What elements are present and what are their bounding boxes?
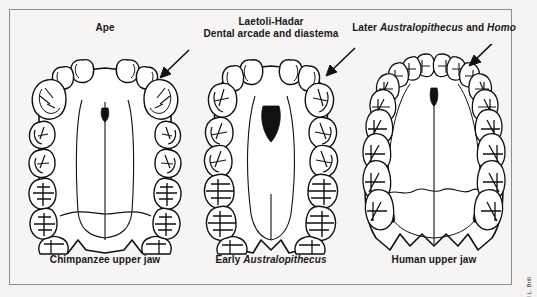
ape-upper-jaw-illustration — [20, 44, 190, 256]
early-australopithecus-jaw-illustration — [185, 44, 357, 256]
panel-laetoli-hadar-bottom-caption: Early Australopithecus — [185, 254, 357, 266]
figure-frame: Ape — [9, 9, 512, 285]
bottom-caption-plain: Early — [215, 254, 243, 265]
diastema-pointer-arrow — [469, 44, 504, 66]
credit-container: © 1981 Luba Dmytryk Gudz/David L. Brill — [521, 125, 531, 285]
top-caption-mid: and — [463, 22, 487, 33]
panel-later-australopithecus-homo: Later Australopithecus and Homo — [348, 10, 520, 284]
panel-ape: Ape — [20, 10, 190, 284]
panel-human-top-caption: Later Australopithecus and Homo — [348, 22, 520, 34]
panel-laetoli-hadar: Laetoli-Hadar Dental arcade and diastema — [185, 10, 357, 284]
panel-laetoli-hadar-top-caption-line2: Dental arcade and diastema — [185, 28, 357, 40]
figure-root: Ape — [0, 0, 537, 297]
panel-human-bottom-caption: Human upper jaw — [348, 254, 520, 266]
top-caption-pre: Later — [352, 22, 380, 33]
panel-laetoli-hadar-top-caption-line1: Laetoli-Hadar — [185, 16, 357, 28]
top-caption-italic-australopithecus: Australopithecus — [380, 22, 463, 33]
top-caption-italic-homo: Homo — [487, 22, 516, 33]
human-upper-jaw-illustration — [348, 44, 520, 256]
bottom-caption-italic: Australopithecus — [243, 254, 326, 265]
panel-ape-top-caption: Ape — [20, 22, 190, 34]
copyright-credit: © 1981 Luba Dmytryk Gudz/David L. Brill — [526, 277, 532, 297]
panel-ape-bottom-caption: Chimpanzee upper jaw — [20, 254, 190, 266]
